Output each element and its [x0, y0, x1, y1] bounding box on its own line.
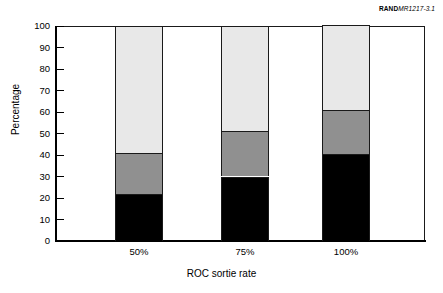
bar-segment-bottom	[221, 177, 269, 242]
y-axis-title: Percentage	[10, 65, 21, 155]
y-tick-label-text: 50	[24, 129, 50, 139]
y-tick-mark	[57, 198, 64, 199]
y-tick-label-text: 90	[24, 43, 50, 53]
bar-segment-middle	[221, 131, 269, 176]
bar-group	[221, 26, 269, 241]
y-tick-mark	[57, 176, 64, 177]
source-tag: RANDMR1217-3.1	[379, 6, 435, 13]
x-axis-title: ROC sortie rate	[0, 268, 443, 279]
y-tick-label: 30	[22, 172, 50, 182]
y-tick-label: 80	[22, 64, 50, 74]
y-tick-label: 60	[22, 107, 50, 117]
y-tick-label-text: 0	[24, 236, 50, 246]
bar-segment-bottom	[322, 154, 370, 241]
y-tick-label: 10	[22, 215, 50, 225]
y-tick-mark	[57, 47, 64, 48]
y-tick-mark	[57, 90, 64, 91]
y-tick-mark	[57, 26, 64, 27]
y-tick-mark	[57, 133, 64, 134]
figure-container: RANDMR1217-3.1 Percentage 01020304050607…	[0, 0, 443, 293]
y-tick-mark	[57, 69, 64, 70]
y-tick-mark	[57, 241, 64, 242]
y-tick-label: 20	[22, 193, 50, 203]
y-tick-label-text: 100	[24, 21, 50, 31]
source-tag-brand: RAND	[379, 5, 398, 12]
y-tick-label: 50	[22, 129, 50, 139]
bar-segment-top	[221, 26, 269, 131]
y-tick-mark	[57, 112, 64, 113]
y-tick-label: 70	[22, 86, 50, 96]
bar-group	[322, 26, 370, 241]
y-tick-label: 100	[22, 21, 50, 31]
y-tick-label-text: 60	[24, 107, 50, 117]
source-tag-number: MR1217-3.1	[398, 5, 435, 12]
y-tick-label-text: 80	[24, 64, 50, 74]
y-tick-label: 40	[22, 150, 50, 160]
y-tick-label: 0	[22, 236, 50, 246]
bar-segment-middle	[322, 110, 370, 154]
bar-segment-bottom	[115, 194, 163, 241]
bar-segment-top	[115, 26, 163, 153]
bar-segment-top	[322, 25, 370, 110]
y-tick-label-text: 40	[24, 150, 50, 160]
y-tick-mark	[57, 155, 64, 156]
y-tick-label-text: 20	[24, 193, 50, 203]
y-tick-mark	[57, 219, 64, 220]
y-tick-label-text: 10	[24, 215, 50, 225]
y-axis-line	[55, 26, 57, 242]
y-tick-label-text: 30	[24, 172, 50, 182]
y-tick-label-text: 70	[24, 86, 50, 96]
x-tick-label: 100%	[311, 246, 381, 257]
bar-group	[115, 26, 163, 241]
x-tick-label: 75%	[210, 246, 280, 257]
y-tick-label: 90	[22, 43, 50, 53]
x-tick-label: 50%	[104, 246, 174, 257]
bar-segment-middle	[115, 153, 163, 194]
